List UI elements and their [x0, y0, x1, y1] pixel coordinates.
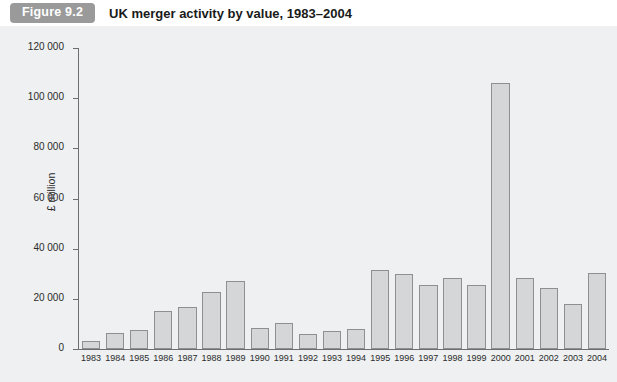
bar-slot — [127, 48, 151, 349]
x-tick-label: 1985 — [127, 353, 151, 363]
x-tick-label: 1996 — [392, 353, 416, 363]
bar-1998[interactable] — [443, 278, 461, 349]
figure-number-badge: Figure 9.2 — [10, 3, 95, 23]
bar-slot — [537, 48, 561, 349]
y-tick: 0 — [73, 349, 79, 350]
x-tick-label: 2000 — [489, 353, 513, 363]
bar-2000[interactable] — [491, 83, 509, 349]
bar-1992[interactable] — [299, 334, 317, 349]
bar-2004[interactable] — [588, 273, 606, 350]
figure-title: UK merger activity by value, 1983–2004 — [109, 6, 352, 21]
bar-slot — [513, 48, 537, 349]
y-tick-label: 20 000 — [33, 292, 64, 303]
bar-1993[interactable] — [323, 331, 341, 349]
bar-slot — [175, 48, 199, 349]
x-tick-label: 2002 — [537, 353, 561, 363]
plot-area: 120 000100 00080 00060 00040 00020 0000 — [78, 48, 609, 349]
y-tick-label: 60 000 — [33, 192, 64, 203]
bar-slot — [392, 48, 416, 349]
bar-slot — [489, 48, 513, 349]
bar-slot — [440, 48, 464, 349]
bar-slot — [368, 48, 392, 349]
x-axis-line — [78, 349, 609, 350]
bar-1984[interactable] — [106, 333, 124, 349]
x-tick-label: 2001 — [513, 353, 537, 363]
bar-slot — [151, 48, 175, 349]
bar-slot — [465, 48, 489, 349]
bar-1989[interactable] — [226, 281, 244, 349]
bar-slot — [296, 48, 320, 349]
x-tick-label: 2003 — [561, 353, 585, 363]
bar-1983[interactable] — [82, 341, 100, 349]
bar-slot — [224, 48, 248, 349]
bar-1994[interactable] — [347, 329, 365, 349]
bar-slot — [320, 48, 344, 349]
bar-2003[interactable] — [564, 304, 582, 349]
x-tick-label: 1988 — [199, 353, 223, 363]
bar-1985[interactable] — [130, 330, 148, 349]
y-tick-label: 100 000 — [28, 91, 64, 102]
bar-1987[interactable] — [178, 307, 196, 349]
x-axis-label-group: 1983198419851986198719881989199019911992… — [79, 353, 609, 363]
x-tick-label: 1989 — [224, 353, 248, 363]
figure-header: Figure 9.2 UK merger activity by value, … — [0, 0, 617, 26]
bar-slot — [344, 48, 368, 349]
bar-slot — [79, 48, 103, 349]
y-tick-label: 80 000 — [33, 141, 64, 152]
bar-1996[interactable] — [395, 274, 413, 349]
bar-1991[interactable] — [275, 323, 293, 349]
x-tick-label: 2004 — [585, 353, 609, 363]
bar-1995[interactable] — [371, 270, 389, 349]
bar-slot — [416, 48, 440, 349]
x-tick-label: 1990 — [248, 353, 272, 363]
bar-2001[interactable] — [516, 278, 534, 349]
bar-slot — [103, 48, 127, 349]
bar-2002[interactable] — [540, 288, 558, 349]
x-tick-label: 1993 — [320, 353, 344, 363]
y-tick-label: 0 — [58, 342, 64, 353]
x-tick-label: 1986 — [151, 353, 175, 363]
bar-group — [79, 48, 609, 349]
x-tick-label: 1994 — [344, 353, 368, 363]
y-tick-label: 120 000 — [28, 41, 64, 52]
bar-1990[interactable] — [251, 328, 269, 349]
bar-slot — [585, 48, 609, 349]
x-tick-label: 1992 — [296, 353, 320, 363]
bar-1997[interactable] — [419, 285, 437, 349]
x-tick-label: 1983 — [79, 353, 103, 363]
bar-1999[interactable] — [467, 285, 485, 349]
y-tick-label: 40 000 — [33, 242, 64, 253]
bar-1988[interactable] — [202, 292, 220, 349]
bar-slot — [272, 48, 296, 349]
x-tick-label: 1991 — [272, 353, 296, 363]
bar-slot — [199, 48, 223, 349]
x-tick-label: 1998 — [440, 353, 464, 363]
x-tick-label: 1995 — [368, 353, 392, 363]
bar-1986[interactable] — [154, 311, 172, 349]
x-tick-label: 1984 — [103, 353, 127, 363]
bar-slot — [248, 48, 272, 349]
bar-slot — [561, 48, 585, 349]
x-tick-label: 1999 — [465, 353, 489, 363]
x-tick-label: 1997 — [416, 353, 440, 363]
x-tick-label: 1987 — [175, 353, 199, 363]
chart-panel: £ million 120 000100 00080 00060 00040 0… — [0, 26, 617, 382]
